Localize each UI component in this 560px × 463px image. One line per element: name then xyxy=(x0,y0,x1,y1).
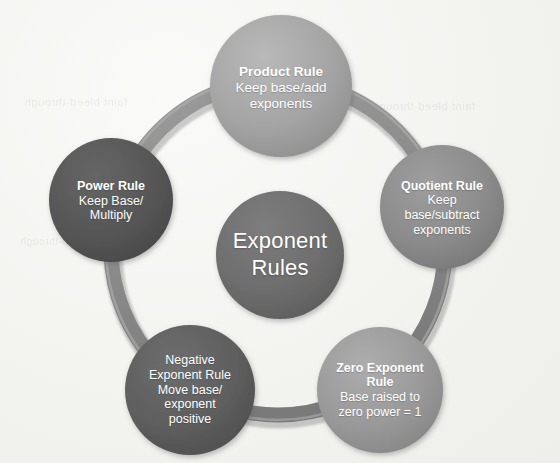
center-node-hit-area[interactable] xyxy=(216,191,344,319)
product-rule-hit-area[interactable] xyxy=(210,15,352,157)
diagram-canvas: faint bleed-through faint bleed-through … xyxy=(0,0,560,463)
zero-exponent-rule-hit-area[interactable] xyxy=(317,327,443,453)
negative-exponent-rule-hit-area[interactable] xyxy=(125,325,255,455)
power-rule-hit-area[interactable] xyxy=(49,138,173,262)
quotient-rule-hit-area[interactable] xyxy=(380,145,504,269)
